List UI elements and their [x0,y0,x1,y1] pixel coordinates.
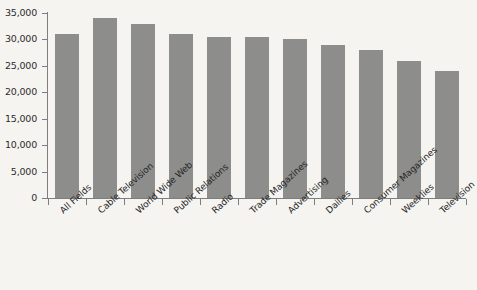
y-axis-tick-label: 0 [0,192,37,203]
bar-chart: 05,00010,00015,00020,00025,00030,00035,0… [0,0,477,290]
x-axis-labels: All FieldsCable TelevisionWorld Wide Web… [0,0,477,92]
x-axis-tick [200,199,201,205]
x-axis-tick [276,199,277,205]
y-axis-tick-label: 15,000 [0,113,37,124]
x-axis-tick [48,199,49,205]
x-axis-tick [124,199,125,205]
y-axis-tick-label: 5,000 [0,166,37,177]
x-axis-tick [314,199,315,205]
x-axis-tick [162,199,163,205]
x-axis-tick [86,199,87,205]
x-axis-tick [238,199,239,205]
x-axis-tick [390,199,391,205]
x-axis-tick [466,199,467,205]
x-axis-tick [352,199,353,205]
x-axis-tick [428,199,429,205]
y-axis-tick-label: 10,000 [0,139,37,150]
